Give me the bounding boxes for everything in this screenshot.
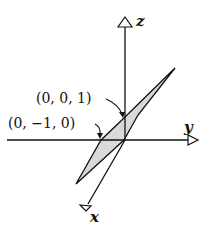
diagram-canvas: z y x (0, 0, 1) (0, −1, 0) bbox=[0, 0, 205, 228]
point-label-0-0-1: (0, 0, 1) bbox=[36, 90, 91, 106]
y-axis-arrowhead-icon bbox=[188, 135, 198, 145]
x-axis-label: x bbox=[89, 208, 100, 226]
z-axis-label: z bbox=[135, 12, 145, 30]
y-axis-label: y bbox=[183, 118, 194, 136]
point-label-0-neg1-0: (0, −1, 0) bbox=[8, 115, 75, 131]
leader-arrow-0-0-1 bbox=[106, 99, 122, 114]
z-axis-arrowhead-icon bbox=[118, 17, 132, 27]
